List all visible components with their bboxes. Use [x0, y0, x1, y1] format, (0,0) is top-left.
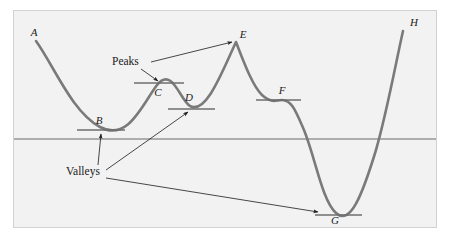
point-label-b: B	[96, 114, 103, 126]
curve-path	[36, 31, 403, 216]
point-label-h: H	[409, 16, 419, 28]
point-label-f: F	[278, 84, 286, 96]
point-label-g: G	[331, 214, 339, 226]
point-label-c: C	[154, 86, 162, 98]
peaks-arrow-to-c	[141, 69, 158, 81]
figure-root: A B C D E F G H Peaks Valleys	[0, 0, 455, 250]
point-label-a: A	[30, 26, 38, 38]
valleys-arrow-to-g	[106, 178, 318, 212]
point-label-d: D	[184, 91, 193, 103]
figure-canvas: A B C D E F G H Peaks Valleys	[0, 0, 455, 250]
peaks-callout-label: Peaks	[112, 55, 139, 67]
peaks-arrow-to-e	[151, 42, 232, 62]
valleys-arrow-to-d	[106, 112, 188, 170]
valleys-callout-label: Valleys	[66, 165, 100, 178]
point-label-e: E	[239, 28, 247, 40]
